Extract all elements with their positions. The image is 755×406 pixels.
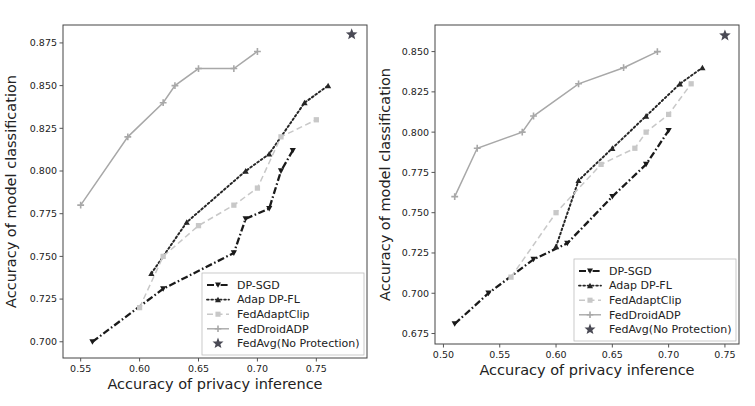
y-tick-label: 0.700: [402, 288, 429, 299]
data-point-marker: [654, 48, 661, 55]
data-point-marker: [231, 203, 236, 208]
legend-label: FedDroidADP: [609, 309, 681, 322]
data-point-marker: [643, 130, 648, 135]
x-tick-label: 0.60: [129, 363, 150, 374]
y-tick-label: 0.750: [30, 251, 57, 262]
x-tick-label: 0.50: [433, 349, 454, 360]
series-feddroidadp: [451, 48, 660, 200]
y-tick-label: 0.775: [30, 208, 57, 219]
data-point-marker: [452, 321, 458, 327]
data-point-marker: [314, 117, 319, 122]
data-point-marker: [553, 210, 558, 215]
series-feddroidadp: [77, 48, 261, 209]
data-point-marker: [474, 145, 481, 152]
x-axis-title: Accuracy of privacy inference: [479, 362, 694, 378]
x-tick-label: 0.65: [188, 363, 209, 374]
legend: DP-SGDAdap DP-FLFedAdaptClipFedDroidADPF…: [202, 273, 364, 355]
data-point-marker: [278, 134, 283, 139]
chart-panel-right: 0.500.550.600.650.700.750.6750.7000.7250…: [377, 0, 754, 406]
x-tick-label: 0.60: [545, 349, 566, 360]
legend-label: FedAdaptClip: [237, 308, 310, 321]
series-fedadaptclip: [508, 81, 693, 280]
x-tick-label: 0.65: [602, 349, 623, 360]
data-point-marker: [89, 339, 95, 345]
x-tick-label: 0.70: [658, 349, 679, 360]
legend-label: FedAdaptClip: [609, 294, 682, 307]
legend-label: FedAvg(No Protection): [237, 337, 360, 350]
y-tick-label: 0.875: [30, 37, 57, 48]
y-axis-title: Accuracy of model classification: [3, 75, 19, 308]
y-axis-title: Accuracy of model classification: [377, 68, 393, 301]
x-tick-label: 0.75: [714, 349, 735, 360]
y-tick-label: 0.725: [402, 247, 429, 258]
y-tick-label: 0.775: [402, 167, 429, 178]
x-tick-label: 0.55: [489, 349, 510, 360]
legend-marker-square-icon: [215, 312, 220, 317]
legend-label: FedDroidADP: [237, 323, 309, 336]
right-chart-svg: 0.500.550.600.650.700.750.6750.7000.7250…: [377, 0, 755, 406]
series-line: [455, 52, 658, 197]
series-fedavg-no-protection-: [346, 28, 358, 39]
legend: DP-SGDAdap DP-FLFedAdaptClipFedDroidADPF…: [574, 259, 736, 341]
y-tick-label: 0.850: [30, 80, 57, 91]
data-point-marker: [325, 83, 331, 89]
series-line: [151, 86, 328, 274]
data-point-marker: [278, 168, 284, 174]
data-point-marker: [161, 254, 166, 259]
left-chart-svg: 0.550.600.650.700.750.7000.7250.7500.775…: [0, 0, 377, 406]
series-fedavg-no-protection-: [719, 29, 731, 40]
data-point-marker: [346, 28, 358, 39]
x-axis-title: Accuracy of privacy inference: [107, 376, 322, 392]
legend-label: FedAvg(No Protection): [609, 323, 732, 336]
data-point-marker: [137, 305, 142, 310]
data-point-marker: [689, 81, 694, 86]
legend-label: DP-SGD: [237, 279, 280, 292]
x-tick-label: 0.70: [247, 363, 268, 374]
legend-label: DP-SGD: [609, 265, 652, 278]
data-point-marker: [255, 185, 260, 190]
y-tick-label: 0.825: [402, 86, 429, 97]
data-point-marker: [196, 223, 201, 228]
y-tick-label: 0.750: [402, 207, 429, 218]
y-tick-label: 0.700: [30, 336, 57, 347]
data-point-marker: [620, 64, 627, 71]
data-point-marker: [553, 244, 559, 250]
data-point-marker: [632, 146, 637, 151]
y-tick-label: 0.800: [402, 127, 429, 138]
data-point-marker: [699, 65, 705, 71]
y-tick-label: 0.825: [30, 123, 57, 134]
data-point-marker: [643, 113, 649, 119]
series-line: [556, 68, 702, 247]
series-adap-dp-fl: [553, 65, 706, 249]
chart-panel-left: 0.550.600.650.700.750.7000.7250.7500.775…: [0, 0, 377, 406]
series-line: [81, 51, 258, 205]
data-point-marker: [451, 193, 458, 200]
legend-label: Adap DP-FL: [609, 279, 673, 292]
series-adap-dp-fl: [148, 83, 331, 276]
data-point-marker: [148, 271, 154, 277]
data-point-marker: [666, 112, 671, 117]
y-tick-label: 0.800: [30, 165, 57, 176]
data-point-marker: [508, 275, 513, 280]
data-point-marker: [598, 162, 603, 167]
x-tick-label: 0.55: [70, 363, 91, 374]
data-point-marker: [719, 29, 731, 40]
y-tick-label: 0.725: [30, 293, 57, 304]
y-tick-label: 0.850: [402, 46, 429, 57]
y-tick-label: 0.675: [402, 328, 429, 339]
x-tick-label: 0.75: [306, 363, 327, 374]
figure-container: 0.550.600.650.700.750.7000.7250.7500.775…: [0, 0, 755, 406]
legend-marker-square-icon: [587, 298, 592, 303]
legend-label: Adap DP-FL: [237, 293, 301, 306]
